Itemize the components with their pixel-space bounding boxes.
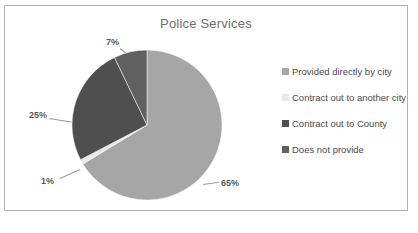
leader-line-25 xyxy=(49,118,73,123)
chart-frame: Police Services 65% 1% 25% 7% Provided d… xyxy=(4,5,408,211)
legend-item: Contract out to County xyxy=(282,118,414,130)
legend-swatch-does-not-provide xyxy=(282,146,289,153)
legend-swatch-contract-out-to-another-city xyxy=(282,94,289,101)
legend-item-label: Contract out to County xyxy=(292,118,387,130)
pie-slice-group xyxy=(72,50,222,200)
legend-item: Does not provide xyxy=(282,144,414,156)
pie-chart xyxy=(71,49,223,201)
legend-swatch-provided-directly-by-city xyxy=(282,68,289,75)
chart-legend: Provided directly by city Contract out t… xyxy=(282,66,414,170)
legend-item-label: Provided directly by city xyxy=(292,66,392,78)
legend-item: Contract out to another city xyxy=(282,92,414,104)
legend-item-label: Contract out to another city xyxy=(292,92,406,104)
chart-title: Police Services xyxy=(5,16,407,31)
pie-label-does-not-provide: 7% xyxy=(106,37,119,47)
legend-item-label: Does not provide xyxy=(292,144,364,156)
pie-label-provided-directly-by-city: 65% xyxy=(221,178,239,188)
pie-label-contract-out-to-county: 25% xyxy=(29,110,47,120)
legend-item: Provided directly by city xyxy=(282,66,414,78)
pie-label-contract-out-to-another-city: 1% xyxy=(41,176,54,186)
legend-swatch-contract-out-to-county xyxy=(282,120,289,127)
